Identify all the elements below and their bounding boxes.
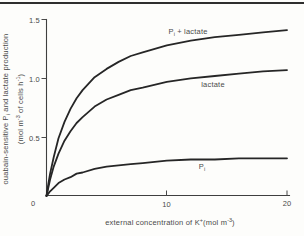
y-axis-superscript-m3: -3 <box>15 115 21 120</box>
y-axis-title-text: ouabain-sensitive P <box>1 115 10 184</box>
y-axis-superscript-h1: -1 <box>15 76 21 81</box>
x-tick-label-10: 10 <box>159 200 175 209</box>
x-tick-label-20: 20 <box>279 199 295 208</box>
chart-canvas <box>0 0 304 236</box>
curve-pi <box>47 158 288 196</box>
curve3-label-sub-i: i <box>204 166 205 172</box>
y-tick-label-1-5: 1.5 <box>22 16 40 25</box>
curve1-label-text: + lactate <box>175 27 208 36</box>
y-axis-title: ouabain-sensitive Pi and lactate product… <box>1 34 26 185</box>
origin-label: 0 <box>31 199 35 208</box>
y-axis-subscript-i: i <box>5 114 11 115</box>
curve-label-pi: Pi <box>194 162 210 174</box>
y-axis-title-line2: (mol m-3 of cells h-1) <box>13 34 26 185</box>
x-axis-title-text: external concentration of K <box>105 218 200 227</box>
curve-pi-plus-lactate <box>47 30 288 196</box>
x-axis-title-units: (mol m <box>203 218 227 227</box>
curve-label-pi-plus-lactate: Pi + lactate <box>158 27 218 39</box>
y-axis-units-close: ) <box>16 74 25 77</box>
y-axis-units-mid: of cells h <box>16 81 25 115</box>
figure-container: 1.5 1.0 0.5 0 10 20 external concentrati… <box>0 0 304 236</box>
x-axis-title: external concentration of K+(mol m-3) <box>40 216 300 227</box>
x-axis-title-close: ) <box>232 218 235 227</box>
curve-label-lactate: lactate <box>192 80 234 89</box>
y-axis-title-line1: ouabain-sensitive Pi and lactate product… <box>1 34 13 185</box>
y-axis-units-pre: (mol m <box>16 120 25 144</box>
y-axis-title-text2: and lactate production <box>1 34 10 115</box>
